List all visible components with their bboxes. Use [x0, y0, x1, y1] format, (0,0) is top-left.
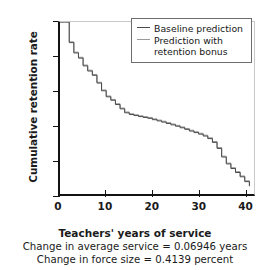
legend-label-baseline: Baseline prediction	[154, 23, 243, 35]
y-axis-title: Cumulative retention rate	[27, 12, 39, 202]
x-tick-label: 20	[132, 200, 172, 212]
legend-line-swatch-bonus	[137, 39, 150, 40]
x-tick-mark	[246, 190, 247, 197]
caption-change-in-force-size: Change in force size = 0.4139 percent	[0, 254, 270, 265]
legend-item: Prediction with retention bonus	[135, 35, 247, 58]
x-tick-label: 30	[179, 200, 219, 212]
legend-label-bonus: Prediction with retention bonus	[154, 35, 228, 58]
x-tick-label: 10	[85, 200, 125, 212]
x-tick-mark	[58, 190, 59, 197]
x-tick-mark	[199, 190, 200, 197]
legend: Baseline prediction Prediction with rete…	[131, 18, 252, 63]
x-tick-mark	[105, 190, 106, 197]
retention-rate-figure: Cumulative retention rate 00.20.40.60.81…	[0, 0, 270, 270]
x-axis-title: Teachers' years of service	[0, 227, 270, 239]
x-tick-label: 0	[38, 200, 78, 212]
legend-item: Baseline prediction	[135, 23, 247, 35]
caption-change-in-average-service: Change in average service = 0.06946 year…	[0, 241, 270, 252]
legend-line-swatch-baseline	[137, 27, 150, 28]
x-tick-label: 40	[226, 200, 266, 212]
x-tick-mark	[152, 190, 153, 197]
